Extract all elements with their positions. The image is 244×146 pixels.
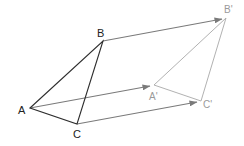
label-c-prime: C' [203, 99, 212, 110]
vector-b-to-b-prime [103, 19, 222, 41]
vector-c-to-c-prime [77, 102, 197, 124]
label-a: A [18, 104, 26, 116]
triangle-a-prime-b-prime-c-prime [154, 18, 226, 101]
label-a-prime: A' [149, 91, 158, 102]
vector-a-to-a-prime [30, 86, 150, 108]
label-b: B [97, 27, 104, 39]
label-b-prime: B' [224, 4, 233, 15]
translation-diagram: A B C A' B' C' [0, 0, 244, 146]
label-c: C [73, 128, 81, 140]
triangle-abc [30, 41, 103, 124]
